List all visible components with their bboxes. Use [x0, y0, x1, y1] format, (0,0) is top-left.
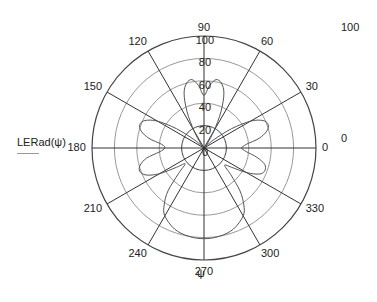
angle-tick-label-30: 30 — [306, 81, 318, 92]
angle-tick-label-0: 0 — [322, 142, 328, 153]
angle-axis-label: ψ — [197, 268, 205, 279]
angle-tick-label-60: 60 — [261, 36, 273, 47]
angle-tick-label-180: 180 — [67, 142, 85, 153]
legend-label: LERad(ψ) — [17, 136, 66, 148]
radius-tick-label-40: 40 — [199, 102, 211, 113]
angle-tick-label-150: 150 — [84, 81, 102, 92]
spoke-330 — [204, 148, 301, 204]
radius-tick-label-60: 60 — [199, 80, 211, 91]
radius-tick-label-80: 80 — [199, 57, 211, 68]
angle-tick-label-300: 300 — [261, 248, 279, 259]
legend-line-swatch — [17, 153, 39, 154]
angle-tick-label-210: 210 — [84, 203, 102, 214]
angle-tick-label-90: 90 — [198, 22, 210, 33]
polar-plot — [0, 0, 377, 302]
spoke-210 — [107, 148, 204, 204]
angle-tick-label-120: 120 — [128, 36, 146, 47]
angle-tick-label-240: 240 — [128, 248, 146, 259]
outer-radius-min-label: 0 — [341, 133, 347, 144]
radius-tick-label-0: 0 — [202, 147, 208, 158]
angle-tick-label-330: 330 — [306, 203, 324, 214]
outer-radius-max-label: 100 — [341, 22, 359, 33]
radius-tick-label-100: 100 — [196, 35, 214, 46]
radius-tick-label-20: 20 — [199, 125, 211, 136]
